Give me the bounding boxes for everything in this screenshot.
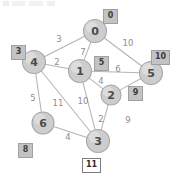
graph-node-3[interactable]: 3 — [87, 130, 110, 153]
node-id-label: 0 — [91, 25, 99, 38]
node-id-label: 5 — [147, 67, 155, 80]
edge-weight-label: 4 — [98, 76, 103, 86]
graph-node-1[interactable]: 1 — [69, 60, 92, 83]
edge-weight-label: 2 — [54, 57, 59, 67]
edge-weight-label: 10 — [123, 38, 134, 48]
graph-figure-canvas: 371026410295114 0123456 059113108 — [0, 0, 171, 175]
node-id-label: 3 — [94, 135, 102, 148]
edge-weight-label: 2 — [98, 114, 103, 124]
edge-weight-label: 9 — [125, 115, 130, 125]
node-id-label: 1 — [76, 65, 84, 78]
edge-weight-label: 11 — [53, 98, 64, 108]
edge-weight-label: 3 — [56, 34, 61, 44]
distance-label-node-2: 9 — [128, 86, 143, 101]
node-id-label: 2 — [107, 89, 115, 102]
distance-label-node-0: 0 — [103, 9, 118, 24]
edge-weight-label: 5 — [30, 93, 35, 103]
edge-weight-label: 4 — [65, 132, 70, 142]
node-id-label: 6 — [39, 117, 47, 130]
edge-weight-label: 10 — [78, 96, 89, 106]
edge-weight-label: 6 — [115, 64, 120, 74]
graph-node-6[interactable]: 6 — [32, 112, 54, 134]
distance-label-node-1: 5 — [94, 56, 109, 71]
node-id-label: 4 — [30, 56, 38, 69]
distance-label-node-4: 3 — [11, 45, 26, 60]
edge-weight-label: 7 — [80, 47, 85, 57]
graph-edge — [35, 72, 41, 114]
distance-label-node-5: 10 — [151, 50, 170, 65]
distance-label-node-6: 8 — [18, 143, 33, 158]
distance-label-node-3: 11 — [82, 158, 101, 173]
graph-node-2[interactable]: 2 — [101, 85, 121, 105]
